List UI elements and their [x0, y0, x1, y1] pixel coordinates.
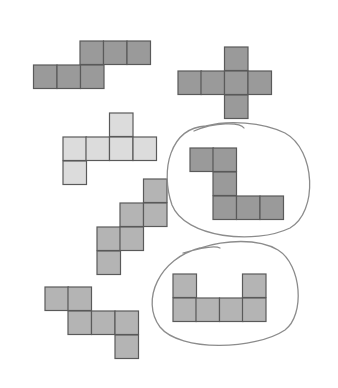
- net-cell: [213, 148, 237, 172]
- net-cell: [115, 335, 139, 359]
- net-3: [63, 113, 157, 185]
- net-cell: [243, 298, 267, 322]
- net-cell: [68, 311, 92, 335]
- net-cell: [63, 137, 87, 161]
- net-2-cross: [178, 47, 272, 119]
- net-cell: [248, 71, 272, 95]
- net-cell: [225, 95, 249, 119]
- net-cell: [201, 71, 225, 95]
- net-cell: [243, 274, 267, 298]
- net-cell: [104, 41, 128, 65]
- net-cell: [57, 65, 81, 89]
- net-cell: [173, 298, 197, 322]
- net-cell: [63, 161, 87, 185]
- net-cell: [144, 203, 168, 227]
- net-cell: [260, 196, 284, 220]
- net-4: [190, 148, 284, 220]
- net-cell: [220, 298, 244, 322]
- net-cell: [173, 274, 197, 298]
- shapes-layer: [34, 41, 284, 359]
- net-cell: [225, 71, 249, 95]
- net-cell: [144, 179, 168, 203]
- net-cell: [120, 227, 144, 251]
- net-cell: [34, 65, 58, 89]
- net-cell: [190, 148, 214, 172]
- net-cell: [92, 311, 116, 335]
- net-cell: [110, 137, 134, 161]
- net-cell: [237, 196, 261, 220]
- net-cell: [115, 311, 139, 335]
- net-cell: [213, 172, 237, 196]
- net-cell: [86, 137, 110, 161]
- net-cell: [120, 203, 144, 227]
- net-cell: [127, 41, 151, 65]
- net-cell: [213, 196, 237, 220]
- net-cell: [97, 227, 121, 251]
- cube-net-figure: [0, 0, 338, 388]
- net-cell: [225, 47, 249, 71]
- net-cell: [97, 251, 121, 275]
- net-cell: [80, 41, 104, 65]
- net-cell: [81, 65, 105, 89]
- net-6: [45, 287, 139, 359]
- net-cell: [196, 298, 220, 322]
- net-5-staircase: [97, 179, 167, 275]
- net-cell: [110, 113, 134, 137]
- net-cell: [45, 287, 69, 311]
- net-cell: [178, 71, 202, 95]
- net-cell: [133, 137, 157, 161]
- net-7-u: [173, 274, 266, 322]
- net-1: [34, 41, 151, 89]
- net-cell: [68, 287, 92, 311]
